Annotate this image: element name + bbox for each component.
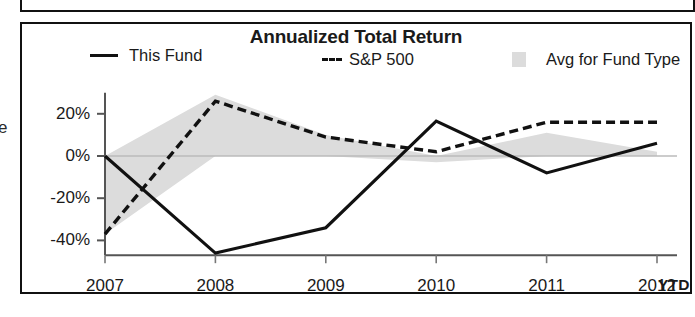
annualized-total-return-chart-panel: Annualized Total Return This Fund S&P 50… [20, 22, 692, 294]
x-tick-label: 2011 [512, 276, 582, 296]
x-tick-label: 2007 [70, 276, 140, 296]
y-tick-label: 20% [28, 104, 90, 124]
y-tick-label: -40% [28, 230, 90, 250]
chart-svg [22, 24, 690, 292]
margin-text-fragment: e [0, 118, 7, 138]
plot-area: 20%0%-20%-40% 200720082009201020112012 Y… [22, 24, 690, 292]
y-tick-label: 0% [28, 146, 90, 166]
x-tick-label: 2008 [180, 276, 250, 296]
y-tick-label: -20% [28, 188, 90, 208]
adjacent-panel-bottom-edge [20, 0, 695, 12]
x-tick-label: 2009 [291, 276, 361, 296]
x-tick-label: 2010 [401, 276, 471, 296]
x-axis-ytd-label: YTD [658, 276, 690, 294]
